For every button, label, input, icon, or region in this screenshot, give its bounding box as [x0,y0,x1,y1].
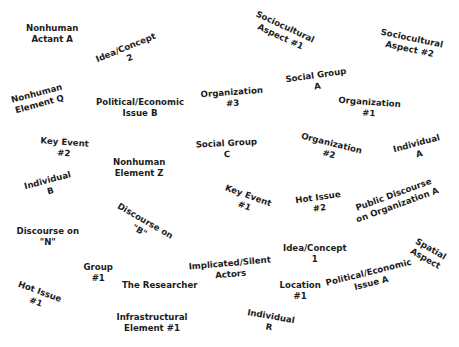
map-node-individual-r: IndividualR [244,307,295,337]
map-node-location-1: Location#1 [280,280,321,302]
map-node-infrastructural-element-1: InfrastructuralElement #1 [117,312,188,334]
node-label-line2: #1 [84,273,113,284]
map-node-nonhuman-element-z: NonhumanElement Z [113,157,165,179]
node-label-line1: Nonhuman [113,157,165,168]
situational-map-canvas: NonhumanActant AIdea/Concept2Sociocultur… [0,0,459,347]
map-node-organization-3: Organization#3 [200,85,264,111]
map-node-hot-issue-1: Hot Issue#1 [13,279,63,315]
map-node-organization-1: Organization#1 [337,95,401,121]
map-node-discourse-on-b: Discourse on"B" [109,201,174,251]
node-label-line1: Location [280,280,321,291]
map-node-nonhuman-actant-a: NonhumanActant A [26,23,78,45]
node-label-line1: Idea/Concept [283,243,347,254]
map-node-group-1: Group#1 [84,262,113,284]
node-label-line2: Element #1 [117,323,188,334]
map-node-discourse-on-n: Discourse on"N" [17,226,80,248]
map-node-hot-issue-2: Hot Issue#2 [295,189,343,217]
node-label-line1: Discourse on [17,226,80,237]
node-label-line2: Actant A [26,34,78,45]
map-node-social-group-c: Social GroupC [195,136,257,161]
map-node-individual-b: IndividualB [23,169,75,203]
cutoff-title-fragment [60,0,320,3]
node-label-line1: Political/Economic [96,97,184,108]
node-label-line1: The Researcher [122,280,198,291]
node-label-line1: Nonhuman [26,23,78,34]
map-node-the-researcher: The Researcher [122,280,198,291]
node-label-line2: 1 [283,254,347,265]
map-node-key-event-1: Key Event#1 [220,182,273,219]
map-node-key-event-2: Key Event#2 [39,135,89,160]
node-label-line2: "N" [17,237,80,248]
map-node-public-discourse-org-a: Public Discourseon Organization A [350,175,439,225]
map-node-social-group-a: Social GroupA [284,66,348,96]
map-node-idea-concept-1: Idea/Concept1 [283,243,347,265]
map-node-sociocultural-aspect-2: SocioculturalAspect #2 [377,27,444,62]
map-node-implicated-silent-actors: Implicated/SilentActors [188,254,272,283]
node-label-line2: #1 [280,291,321,302]
map-node-political-economic-issue-b: Political/EconomicIssue B [96,97,184,119]
node-label-line2: Element Z [113,168,165,179]
map-node-spatial-aspect: SpatialAspect [408,236,448,272]
node-label-line1: Group [84,262,113,273]
node-label-line2: Issue B [96,108,184,119]
map-node-nonhuman-element-q: NonhumanElement Q [10,82,66,117]
map-node-idea-concept-2: Idea/Concept2 [94,31,161,75]
map-node-individual-a: IndividualA [392,132,444,166]
map-node-sociocultural-aspect-1: SocioculturalAspect #1 [249,9,316,56]
map-node-organization-2: Organization#2 [297,131,363,167]
node-label-line1: Infrastructural [117,312,188,323]
